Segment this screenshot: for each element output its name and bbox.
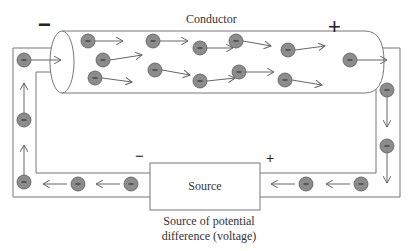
conductor-end-ellipse [50, 31, 74, 93]
wire-electron [124, 177, 138, 191]
source-label: Source [150, 163, 260, 210]
wire-electron [17, 113, 31, 127]
conductor-electron [232, 65, 246, 79]
wire-electron [17, 53, 31, 67]
source-caption: Source of potential difference (voltage) [150, 214, 268, 244]
conductor-electron [148, 63, 162, 77]
conductor-negative-sign: − [38, 12, 51, 38]
conductor-electron [193, 41, 207, 55]
conductor-electron [229, 34, 243, 48]
conductor-electron [96, 53, 110, 67]
wire-electron [299, 177, 313, 191]
caption-line-1: Source of potential [163, 214, 254, 228]
conductor-electron [278, 73, 292, 87]
conductor-electron [88, 71, 102, 85]
wire-electron [380, 83, 394, 97]
wire-electron [71, 177, 85, 191]
conductor-electron [281, 43, 295, 57]
source-positive-sign: + [266, 150, 274, 166]
wire-electron [343, 53, 357, 67]
wire-electron [17, 175, 31, 189]
conductor-electron [146, 34, 160, 48]
conductor-electron [81, 34, 95, 48]
conductor-label: Conductor [186, 12, 237, 27]
caption-line-2: difference (voltage) [162, 229, 257, 243]
wire-electron [354, 177, 368, 191]
conductor-positive-sign: + [328, 14, 341, 40]
wire-electron [380, 139, 394, 153]
conductor-electron [193, 74, 207, 88]
source-negative-sign: − [135, 147, 144, 164]
